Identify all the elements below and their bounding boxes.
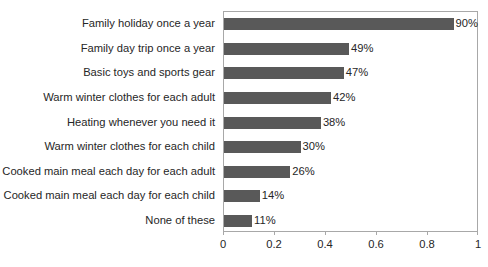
bar-value-label: 14%: [262, 189, 284, 201]
category-label: None of these: [0, 214, 215, 226]
category-axis-labels: Family holiday once a yearFamily day tri…: [0, 11, 219, 232]
x-tick-mark: [223, 231, 224, 235]
x-tick-label: 0.2: [266, 238, 282, 251]
x-tick-mark: [376, 231, 377, 235]
bar: [224, 18, 454, 30]
bar: [224, 67, 344, 79]
bar-value-label: 30%: [303, 140, 325, 152]
category-label: Warm winter clothes for each adult: [0, 91, 215, 103]
x-tick-label: 0.8: [419, 238, 435, 251]
category-label: Family day trip once a year: [0, 42, 215, 54]
x-tick-mark: [427, 231, 428, 235]
bar-value-label: 49%: [351, 42, 373, 54]
bar: [224, 215, 252, 227]
bar: [224, 117, 321, 129]
x-tick-mark: [477, 231, 478, 235]
bar-value-label: 90%: [456, 17, 478, 29]
bar: [224, 141, 301, 153]
category-label: Family holiday once a year: [0, 17, 215, 29]
bar-value-label: 38%: [323, 116, 345, 128]
bar: [224, 190, 260, 202]
category-label: Basic toys and sports gear: [0, 66, 215, 78]
bar-value-label: 11%: [254, 214, 276, 226]
x-axis: 00.20.40.60.81: [223, 231, 478, 267]
x-tick-label: 0: [220, 238, 226, 251]
x-tick-mark: [325, 231, 326, 235]
x-tick-label: 0.4: [317, 238, 333, 251]
bar: [224, 43, 349, 55]
x-tick-label: 0.6: [368, 238, 384, 251]
x-tick-mark: [274, 231, 275, 235]
bar-value-label: 26%: [292, 165, 314, 177]
x-tick-label: 1: [475, 238, 481, 251]
category-label: Cooked main meal each day for each adult: [0, 165, 215, 177]
bar-value-label: 47%: [346, 66, 368, 78]
bar-value-label: 42%: [333, 91, 355, 103]
bar: [224, 166, 290, 178]
bar: [224, 92, 331, 104]
bar-chart: Family holiday once a yearFamily day tri…: [0, 0, 488, 267]
category-label: Warm winter clothes for each child: [0, 140, 215, 152]
category-label: Cooked main meal each day for each child: [0, 189, 215, 201]
category-label: Heating whenever you need it: [0, 116, 215, 128]
chart-title-sliver: [0, 0, 240, 5]
